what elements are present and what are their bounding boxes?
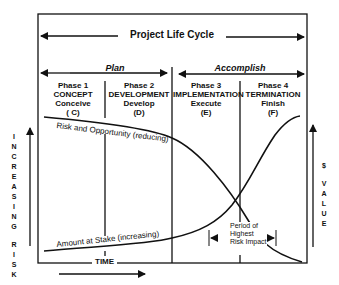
phase-4-code: (F) [241, 108, 305, 117]
stage-label-accomplish: Accomplish [200, 63, 280, 73]
left-axis-label: INCREASING RISK [9, 132, 19, 280]
phase-4-verb: Finish [241, 99, 305, 108]
diagram-graphics [0, 0, 339, 285]
phase-2-code: (D) [106, 108, 172, 117]
phase-4-name: TERMINATION [241, 90, 305, 99]
phase-2-number: Phase 2 [106, 81, 172, 90]
phase-3-number: Phase 3 [173, 81, 239, 90]
phase-2-name: DEVELOPMENT [106, 90, 172, 99]
phase-2: Phase 2 DEVELOPMENT Develop (D) [106, 81, 172, 117]
annotation-line-1: Period of [230, 222, 267, 230]
phase-1: Phase 1 CONCEPT Conceive ( C) [42, 81, 104, 117]
annotation-line-2: Highest [230, 230, 267, 238]
annotation-line-3: Risk Impact [230, 238, 267, 246]
phase-1-number: Phase 1 [42, 81, 104, 90]
phase-2-verb: Develop [106, 99, 172, 108]
phase-3-name: IMPLEMENTATION [173, 90, 239, 99]
phase-1-name: CONCEPT [42, 90, 104, 99]
right-axis-label: $ VALUE [319, 161, 329, 229]
phase-3-verb: Execute [173, 99, 239, 108]
phase-4: Phase 4 TERMINATION Finish (F) [241, 81, 305, 117]
stage-label-plan: Plan [80, 63, 150, 73]
highest-risk-annotation: Period of Highest Risk Impact [230, 222, 267, 246]
time-label: TIME [92, 257, 117, 266]
phase-1-code: ( C) [42, 108, 104, 117]
phase-4-number: Phase 4 [241, 81, 305, 90]
phase-3-code: (E) [173, 108, 239, 117]
phase-1-verb: Conceive [42, 99, 104, 108]
diagram-title: Project Life Cycle [118, 29, 226, 40]
phase-3: Phase 3 IMPLEMENTATION Execute (E) [173, 81, 239, 117]
